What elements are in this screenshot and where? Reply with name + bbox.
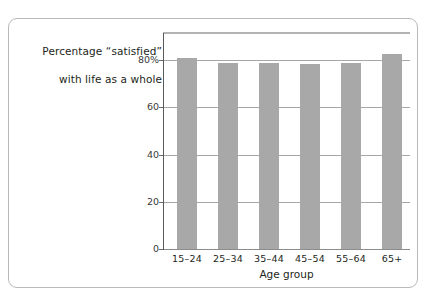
y-tick-label-60: 60 <box>118 101 159 112</box>
bar-65+ <box>382 54 402 249</box>
y-tick-label-0: 0 <box>118 243 159 254</box>
bars-layer <box>163 32 410 249</box>
bar-15–24 <box>177 58 197 249</box>
bar-45–54 <box>300 64 320 249</box>
bar-35–44 <box>259 63 279 249</box>
y-tick-label-20: 20 <box>118 196 159 207</box>
y-tick-label-40: 40 <box>118 149 159 160</box>
y-axis-tick-labels: 80% 60 40 20 0 <box>118 32 159 250</box>
plot-area <box>163 32 410 250</box>
x-axis-title: Age group <box>163 268 410 280</box>
x-axis-tick-labels: 15–2425–3435–4445–5455–6465+ <box>163 253 410 267</box>
y-tick-label-80: 80% <box>118 54 159 65</box>
gridline-0 <box>163 249 410 250</box>
x-tick-label-65+: 65+ <box>366 253 418 264</box>
bar-25–34 <box>218 63 238 249</box>
bar-55–64 <box>341 63 361 249</box>
